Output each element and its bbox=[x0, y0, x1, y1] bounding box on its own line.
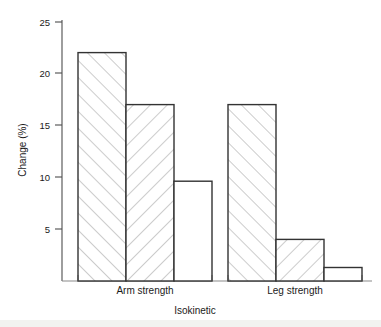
y-tick-label-20: 20 bbox=[39, 68, 50, 79]
x-axis-title: Isokinetic bbox=[174, 305, 216, 316]
bar-arm-series3 bbox=[174, 181, 212, 281]
bar-chart-svg: 25 20 15 10 5 Change (%) bbox=[0, 0, 381, 327]
bar-leg-series2 bbox=[276, 239, 324, 281]
y-tick-label-10: 10 bbox=[39, 172, 50, 183]
bar-arm-series2 bbox=[126, 105, 174, 281]
y-tick-label-5: 5 bbox=[45, 224, 50, 235]
y-tick-label-25: 25 bbox=[39, 17, 50, 28]
chart-figure: 25 20 15 10 5 Change (%) bbox=[0, 0, 381, 327]
x-category-label-leg: Leg strength bbox=[267, 285, 323, 296]
bar-leg-series3 bbox=[324, 268, 362, 282]
bar-arm-series1 bbox=[78, 53, 126, 281]
x-category-label-arm: Arm strength bbox=[116, 285, 173, 296]
bar-leg-series1 bbox=[228, 105, 276, 281]
y-tick-label-15: 15 bbox=[39, 120, 50, 131]
footer-strip bbox=[0, 320, 381, 327]
y-axis-title: Change (%) bbox=[17, 123, 28, 176]
